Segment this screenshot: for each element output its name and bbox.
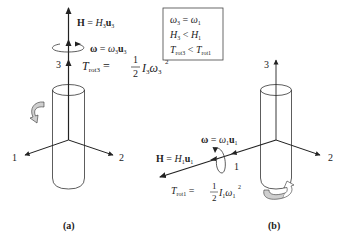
svg-text:2: 2 xyxy=(238,184,241,190)
axis-label-2-b: 2 xyxy=(328,152,333,163)
panel-label-b: (b) xyxy=(268,220,280,232)
svg-text:1: 1 xyxy=(212,181,217,191)
kinetic-energy-label-a: Trot3 = 1 2 I3ω3 2 xyxy=(82,54,169,79)
axis-label-1-a: 1 xyxy=(12,152,17,163)
axis-label-2-a: 2 xyxy=(119,152,124,163)
rotation-diagram: 3 1 2 H = H3u3 ω = ω3u3 Trot3 = 1 2 I3ω3… xyxy=(0,0,352,243)
comparison-box: ω3 = ω1 H3 < H1 Trot3 < Trot1 xyxy=(163,8,223,60)
panel-b: 3 1 2 H = H1u1 ω = ω1u1 Trot1 = 1 2 I1ω1… xyxy=(156,59,333,232)
comparison-line-H: H3 < H1 xyxy=(169,29,201,41)
svg-text:I3ω3: I3ω3 xyxy=(141,61,162,76)
axis-label-3-a: 3 xyxy=(56,59,61,70)
axis-2-a xyxy=(69,140,114,155)
svg-text:2: 2 xyxy=(133,68,138,79)
svg-text:Trot3 =: Trot3 = xyxy=(82,59,110,74)
angular-momentum-label-a: H = H3u3 xyxy=(77,17,114,29)
axis-2-b xyxy=(276,140,320,155)
axis-1-a xyxy=(25,140,69,155)
comparison-line-omega: ω3 = ω1 xyxy=(170,14,201,26)
svg-text:2: 2 xyxy=(212,193,217,203)
svg-text:Trot1 =: Trot1 = xyxy=(171,185,195,197)
axis-label-3-b: 3 xyxy=(264,59,269,70)
angular-velocity-label-b: ω = ω1u1 xyxy=(201,134,238,146)
rotation-arrow-icon-b xyxy=(264,181,294,199)
rotation-arrow-icon-a xyxy=(30,102,44,123)
panel-a: 3 1 2 H = H3u3 ω = ω3u3 Trot3 = 1 2 I3ω3… xyxy=(12,8,169,232)
svg-text:I1ω1: I1ω1 xyxy=(218,187,235,199)
svg-text:1: 1 xyxy=(133,54,138,65)
panel-label-a: (a) xyxy=(63,220,75,232)
kinetic-energy-label-b: Trot1 = 1 2 I1ω1 2 xyxy=(171,181,241,203)
axis-label-1-b: 1 xyxy=(234,161,239,172)
angular-velocity-label-a: ω = ω3u3 xyxy=(90,43,127,55)
angular-momentum-label-b: H = H1u1 xyxy=(156,153,193,165)
